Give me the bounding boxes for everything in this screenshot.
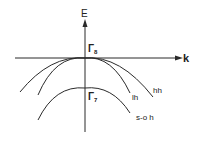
e-axis-arrow-icon bbox=[83, 19, 88, 27]
gamma7-subscript: 7 bbox=[94, 97, 98, 103]
band-hh-label: hh bbox=[153, 86, 162, 95]
gamma7-label: Γ7 bbox=[88, 91, 98, 103]
band-lh-curve bbox=[38, 58, 130, 95]
gamma8-subscript: 8 bbox=[94, 49, 98, 55]
band-structure-diagram: k E Γ8 Γ7 lh hh s-o h bbox=[0, 0, 198, 141]
band-lh-label: lh bbox=[132, 93, 138, 102]
band-so-curve bbox=[38, 88, 130, 120]
e-axis-label: E bbox=[81, 8, 88, 19]
band-so-label: s-o h bbox=[136, 113, 154, 122]
k-axis-label: k bbox=[183, 52, 190, 64]
gamma8-label: Γ8 bbox=[88, 43, 98, 55]
k-axis-arrow-icon bbox=[175, 56, 183, 61]
